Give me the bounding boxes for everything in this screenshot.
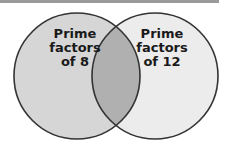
label-right-line-3: of 12: [143, 54, 180, 69]
label-left-line-1: Prime: [54, 26, 97, 41]
label-right-line-2: factors: [136, 40, 188, 55]
venn-diagram: Prime factors of 8 Prime factors of 12: [0, 0, 225, 146]
label-right-line-1: Prime: [141, 26, 184, 41]
label-left-line-2: factors: [49, 40, 101, 55]
label-left-line-3: of 8: [61, 54, 89, 69]
label-right: Prime factors of 12: [136, 26, 188, 69]
